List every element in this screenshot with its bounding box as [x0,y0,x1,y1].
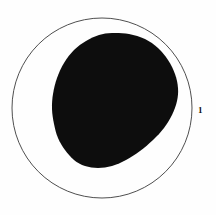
figure-root: 1 [0,0,216,215]
figure-canvas [0,0,216,215]
callout-label-1: 1 [198,106,203,115]
